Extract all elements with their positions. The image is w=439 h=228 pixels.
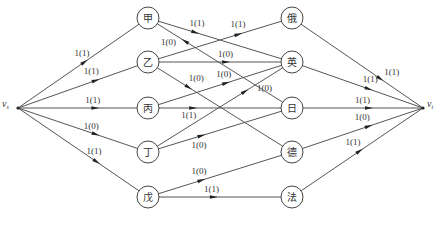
arrow-icon — [222, 82, 230, 86]
terminal-label: vs — [2, 98, 9, 110]
node-ying: 英 — [281, 51, 303, 73]
edge-bing-ri: 1(1) — [159, 106, 281, 120]
node-label: 日 — [287, 103, 297, 114]
arrow-icon — [210, 195, 218, 199]
edge-line — [18, 108, 139, 191]
arrow-icon — [222, 60, 230, 64]
edge-vs-yi: 1(1) — [18, 66, 138, 108]
node-bing: 丙 — [137, 97, 159, 119]
edge-label: 1(0) — [216, 69, 231, 79]
edge-line — [158, 155, 281, 193]
edge-label: 1(1) — [75, 48, 90, 58]
node-label: 德 — [287, 146, 297, 158]
arrow-icon — [197, 134, 205, 138]
edge-ding-ri: 1(0) — [159, 111, 282, 149]
edge-line — [159, 111, 282, 149]
edge-line — [18, 66, 138, 108]
arrow-icon — [80, 60, 88, 66]
arrow-icon — [364, 86, 372, 90]
edge-de-vt: 1(0) — [302, 108, 423, 148]
node-jia: 甲 — [137, 7, 159, 29]
node-label: 丁 — [143, 147, 153, 158]
node-wu: 戊 — [137, 186, 159, 208]
edge-label: 1(1) — [384, 67, 399, 77]
arrow-icon — [365, 106, 373, 110]
arrow-icon — [234, 33, 242, 37]
network-flow-diagram: 1(1)1(1)1(1)1(0)1(1)1(1)1(0)1(1)1(0)1(0)… — [0, 0, 439, 228]
node-vs: vs — [2, 98, 20, 110]
edge-label: 1(1) — [189, 18, 204, 28]
node-de: 德 — [281, 141, 303, 163]
edge-line — [18, 108, 138, 148]
node-label: 乙 — [143, 57, 153, 68]
arrow-icon — [191, 30, 199, 34]
arrow-icon — [241, 89, 249, 95]
edge-vs-bing: 1(1) — [18, 95, 137, 110]
edge-label: 1(1) — [355, 95, 370, 105]
node-fa: 法 — [281, 186, 303, 208]
terminal-dot — [421, 106, 424, 109]
node-label: 法 — [287, 191, 297, 203]
arrow-icon — [91, 131, 99, 135]
terminal-dot — [16, 106, 19, 109]
edge-label: 1(0) — [192, 140, 207, 150]
edge-label: 1(1) — [363, 74, 378, 84]
edge-label: 1(0) — [355, 112, 370, 122]
edge-label: 1(0) — [218, 49, 233, 59]
edge-yi-ying: 1(0) — [159, 49, 281, 64]
arrow-icon — [184, 84, 192, 90]
edge-vs-ding: 1(0) — [18, 108, 138, 148]
node-label: 戊 — [143, 192, 153, 203]
node-yi: 乙 — [137, 51, 159, 73]
edge-label: 1(1) — [230, 19, 245, 29]
edge-label: 1(0) — [84, 121, 99, 131]
edge-label: 1(0) — [257, 83, 272, 93]
edge-label: 1(0) — [161, 37, 176, 47]
edge-wu-fa: 1(1) — [159, 184, 281, 199]
edge-label: 1(0) — [192, 166, 207, 176]
node-label: 丙 — [143, 103, 153, 114]
node-vt: vt — [421, 98, 433, 110]
edge-line — [18, 24, 139, 108]
node-label: 俄 — [287, 13, 297, 24]
arrow-icon — [355, 149, 363, 155]
edge-vs-wu: 1(1) — [18, 108, 139, 191]
arrow-icon — [91, 106, 99, 110]
edge-label: 1(1) — [346, 137, 361, 147]
edge-label: 1(1) — [85, 95, 100, 105]
edge-label: 1(1) — [84, 66, 99, 76]
edge-label: 1(1) — [87, 146, 102, 156]
edges-layer: 1(1)1(1)1(1)1(0)1(1)1(1)1(0)1(1)1(0)1(0)… — [18, 18, 423, 198]
node-label: 英 — [287, 56, 297, 68]
arrow-icon — [182, 39, 190, 45]
node-label: 甲 — [143, 13, 153, 24]
edge-vs-jia: 1(1) — [18, 24, 139, 108]
node-ri: 日 — [281, 97, 303, 119]
node-e: 俄 — [281, 7, 303, 29]
arrow-icon — [364, 125, 372, 129]
terminal-label: vt — [427, 98, 433, 110]
arrow-icon — [197, 179, 205, 183]
edge-label: 1(1) — [181, 110, 196, 120]
arrow-icon — [92, 158, 100, 164]
arrow-icon — [91, 79, 99, 83]
edge-ri-vt: 1(1) — [303, 95, 423, 110]
edge-wu-de: 1(0) — [158, 155, 281, 193]
edge-label: 1(0) — [189, 73, 204, 83]
node-ding: 丁 — [137, 141, 159, 163]
edge-label: 1(1) — [204, 184, 219, 194]
